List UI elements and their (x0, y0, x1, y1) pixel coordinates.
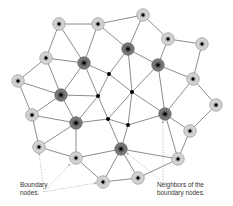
boundary-label-line1: Boundary (20, 181, 47, 189)
mesh-edge (121, 149, 178, 159)
boundary-node (162, 33, 174, 45)
neighbor-node (115, 143, 127, 155)
boundary-node (40, 52, 52, 64)
mesh-edge (165, 114, 178, 159)
boundary-node (70, 152, 82, 164)
mesh-edge (108, 92, 132, 119)
mesh-nodes (12, 9, 222, 188)
boundary-node (33, 141, 45, 153)
mesh-edge (59, 24, 84, 63)
boundary-node (137, 9, 149, 21)
interior-node (107, 72, 111, 76)
mesh-edge (108, 119, 128, 125)
mesh-edge (165, 79, 193, 114)
mesh-edges (18, 15, 216, 182)
mesh-edge (109, 74, 132, 92)
boundary-nodes-label: Boundary nodes. (20, 181, 47, 197)
mesh-edge (98, 96, 108, 119)
boundary-node (53, 18, 65, 30)
annotation-arrow (44, 164, 70, 192)
mesh-edge (158, 65, 165, 114)
boundary-node (187, 73, 199, 85)
neighbor-node (70, 117, 82, 129)
boundary-node (172, 153, 184, 165)
interior-node (96, 94, 100, 98)
neighbor-label-line2: boundary nodes. (157, 189, 205, 197)
boundary-label-line2: nodes. (20, 189, 47, 197)
mesh-edge (98, 15, 143, 24)
mesh-edge (128, 92, 132, 125)
neighbor-node (122, 43, 134, 55)
boundary-node (97, 176, 109, 188)
annotation-arrow (44, 183, 96, 192)
boundary-node (12, 75, 24, 87)
mesh-edge (18, 81, 61, 95)
mesh-edge (76, 149, 121, 158)
boundary-node (92, 18, 104, 30)
neighbor-node (152, 59, 164, 71)
boundary-node (184, 125, 196, 137)
neighbor-nodes-label: Neighbors of the boundary nodes. (157, 181, 205, 197)
mesh-diagram (0, 0, 233, 206)
neighbor-node (55, 89, 67, 101)
interior-node (106, 117, 110, 121)
mesh-edge (32, 115, 76, 123)
neighbor-node (78, 57, 90, 69)
interior-node (130, 90, 134, 94)
boundary-node (26, 109, 38, 121)
boundary-node (132, 172, 144, 184)
interior-node (126, 123, 130, 127)
neighbor-node (159, 108, 171, 120)
boundary-node (210, 99, 222, 111)
neighbor-label-line1: Neighbors of the (157, 181, 205, 189)
mesh-edge (98, 74, 109, 96)
boundary-node (196, 38, 208, 50)
